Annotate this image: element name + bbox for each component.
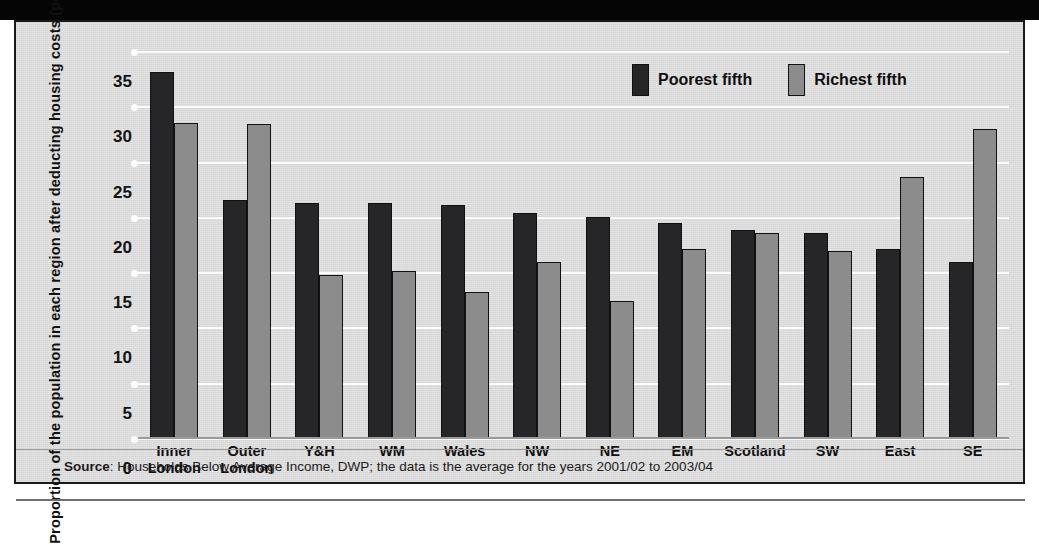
bar-poorest [586,217,610,439]
tick-dot-35 [131,49,138,56]
y-tick-label-20: 20 [113,238,132,258]
bar-group [864,52,937,439]
y-axis-tick-labels: 05101520253035 [74,52,132,439]
bar-poorest [441,205,465,439]
tick-dot-30 [131,104,138,111]
bar-richest [319,275,343,439]
plot-area [138,52,1009,439]
legend-swatch-poorest-icon [632,64,649,96]
bar-group [428,52,501,439]
x-axis-baseline [138,437,1009,439]
bar-group [283,52,356,439]
legend-item-richest: Richest fifth [788,64,906,96]
bar-group [356,52,429,439]
bar-richest [755,233,779,439]
top-black-band [0,0,1039,20]
source-footnote: Source: Households Below Average Income,… [16,459,713,474]
bar-group [138,52,211,439]
bar-poorest [876,249,900,439]
source-footnote-bar: Source: Households Below Average Income,… [16,449,1023,482]
legend-label-poorest: Poorest fifth [658,71,752,89]
source-label: Source [64,459,110,474]
bar-richest [828,251,852,439]
y-tick-label-10: 10 [113,348,132,368]
bar-richest [537,262,561,439]
bar-richest [610,301,634,439]
bar-richest [682,249,706,439]
bar-poorest [731,230,755,439]
y-tick-label-30: 30 [113,127,132,147]
bar-poorest [150,72,174,439]
y-tick-label-35: 35 [113,72,132,92]
bar-group [501,52,574,439]
page-bottom-rule [16,499,1025,501]
chart-figure-panel: Proportion of the population in each reg… [14,20,1025,484]
bar-group [719,52,792,439]
legend-label-richest: Richest fifth [814,71,906,89]
bar-group [936,52,1009,439]
bar-poorest [295,203,319,439]
legend-swatch-richest-icon [788,64,805,96]
bar-poorest [223,200,247,439]
y-tick-label-5: 5 [123,404,132,424]
bar-poorest [804,233,828,439]
y-tick-label-25: 25 [113,183,132,203]
bar-richest [392,271,416,439]
chart-legend: Poorest fifth Richest fifth [632,64,907,96]
source-body: : Households Below Average Income, DWP; … [110,459,713,474]
bar-group [574,52,647,439]
y-axis-title: Proportion of the population in each reg… [34,46,78,446]
bar-poorest [658,223,682,439]
bar-richest [247,124,271,439]
bar-poorest [513,213,537,439]
bar-poorest [368,203,392,439]
legend-item-poorest: Poorest fifth [632,64,752,96]
bar-group [211,52,284,439]
bar-group [646,52,719,439]
tick-dot-5 [131,381,138,388]
tick-dot-20 [131,215,138,222]
tick-dot-10 [131,325,138,332]
bar-group [791,52,864,439]
bar-richest [973,129,997,439]
bar-poorest [949,262,973,439]
tick-dot-25 [131,160,138,167]
tick-dot-0 [131,436,138,443]
bar-richest [465,292,489,439]
bar-richest [900,177,924,439]
tick-dot-15 [131,270,138,277]
y-tick-label-15: 15 [113,293,132,313]
bar-richest [174,123,198,439]
